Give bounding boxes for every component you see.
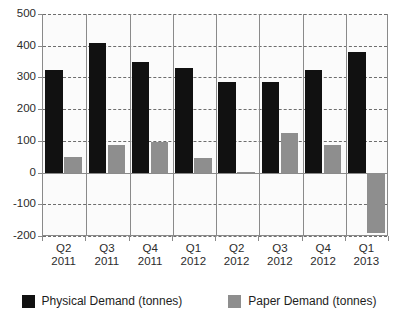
y-tick-label: 0 [30, 167, 36, 179]
bar-paper-demand [281, 133, 299, 173]
x-axis-label-quarter: Q4 [129, 242, 172, 255]
x-tick-mark [215, 236, 216, 241]
y-axis: 5004003002001000-100-200 [0, 0, 42, 250]
y-tick-label: 500 [17, 8, 36, 20]
legend-label: Paper Demand (tonnes) [248, 295, 376, 308]
x-tick-mark [345, 236, 346, 241]
x-axis-label: Q42011 [129, 242, 172, 268]
bar-paper-demand [151, 142, 169, 173]
x-tick-mark [258, 236, 259, 241]
x-axis-label-year: 2011 [42, 255, 85, 268]
y-tick-label: -200 [13, 230, 36, 242]
bar-paper-demand [194, 158, 212, 172]
y-tick-label: 200 [17, 103, 36, 115]
x-axis-label: Q42012 [302, 242, 345, 268]
bar-physical-demand [218, 82, 236, 172]
x-axis-label-year: 2011 [85, 255, 128, 268]
bar-paper-demand [367, 173, 385, 233]
x-axis-label-year: 2012 [258, 255, 301, 268]
legend-item[interactable]: Paper Demand (tonnes) [228, 295, 376, 308]
y-tick-label: 100 [17, 135, 36, 147]
bar-paper-demand [237, 172, 255, 173]
bar-paper-demand [64, 157, 82, 172]
category-separator [303, 14, 304, 235]
bar-chart: 5004003002001000-100-200 Q22011Q32011Q42… [0, 0, 398, 315]
category-separator [346, 14, 347, 235]
x-axis-label: Q22012 [215, 242, 258, 268]
category-separator [259, 14, 260, 235]
x-axis-label-quarter: Q4 [302, 242, 345, 255]
bar-physical-demand [45, 70, 63, 173]
legend-swatch-physical-demand [22, 295, 35, 308]
category-separator [173, 14, 174, 235]
bar-physical-demand [175, 68, 193, 173]
bar-physical-demand [262, 82, 280, 172]
x-axis-label-year: 2012 [302, 255, 345, 268]
legend-swatch-paper-demand [228, 295, 241, 308]
bar-physical-demand [348, 52, 366, 173]
category-separator [86, 14, 87, 235]
chart-legend: Physical Demand (tonnes)Paper Demand (to… [0, 290, 398, 312]
y-tick-label: -100 [13, 198, 36, 210]
x-axis: Q22011Q32011Q42011Q12012Q22012Q32012Q420… [42, 242, 388, 282]
x-axis-label: Q12013 [345, 242, 388, 268]
category-separator [130, 14, 131, 235]
x-axis-label-quarter: Q1 [345, 242, 388, 255]
x-axis-label-year: 2012 [215, 255, 258, 268]
x-axis-label-quarter: Q1 [172, 242, 215, 255]
x-axis-label-quarter: Q3 [258, 242, 301, 255]
x-axis-label: Q12012 [172, 242, 215, 268]
y-tick-label: 400 [17, 40, 36, 52]
x-tick-mark [129, 236, 130, 241]
bar-paper-demand [108, 145, 126, 173]
x-axis-label: Q32012 [258, 242, 301, 268]
x-axis-label: Q32011 [85, 242, 128, 268]
x-tick-mark [302, 236, 303, 241]
x-axis-label: Q22011 [42, 242, 85, 268]
plot-area [42, 14, 388, 236]
x-axis-label-quarter: Q2 [215, 242, 258, 255]
x-axis-label-quarter: Q2 [42, 242, 85, 255]
y-tick-label: 300 [17, 71, 36, 83]
x-tick-mark [388, 236, 389, 241]
bars-layer [43, 14, 387, 235]
bar-paper-demand [324, 145, 342, 173]
bar-physical-demand [132, 62, 150, 173]
legend-label: Physical Demand (tonnes) [42, 295, 183, 308]
x-tick-mark [172, 236, 173, 241]
legend-item[interactable]: Physical Demand (tonnes) [22, 295, 183, 308]
x-axis-label-year: 2013 [345, 255, 388, 268]
bar-physical-demand [89, 43, 107, 173]
bar-physical-demand [305, 70, 323, 173]
x-tick-mark [42, 236, 43, 241]
x-tick-mark [85, 236, 86, 241]
x-axis-label-quarter: Q3 [85, 242, 128, 255]
x-axis-label-year: 2011 [129, 255, 172, 268]
category-separator [216, 14, 217, 235]
x-axis-label-year: 2012 [172, 255, 215, 268]
